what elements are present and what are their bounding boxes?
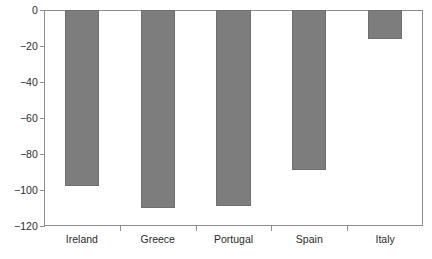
y-axis-tick-label: −100 xyxy=(0,185,38,196)
y-axis-tick-label: −20 xyxy=(0,41,38,52)
x-axis-category-label: Portugal xyxy=(214,234,253,245)
bar-series xyxy=(44,10,423,226)
x-axis-category-label: Ireland xyxy=(66,234,98,245)
y-axis-tick-labels: 0−20−40−60−80−100−120 xyxy=(0,0,38,259)
y-axis-tick-label: −120 xyxy=(0,221,38,232)
x-axis-tick-marks xyxy=(44,226,423,232)
y-axis-tick-label: 0 xyxy=(0,5,38,16)
bar xyxy=(216,10,250,206)
y-axis-tick-label: −60 xyxy=(0,113,38,124)
x-axis-category-label: Italy xyxy=(375,234,394,245)
y-axis-tick-label: −80 xyxy=(0,149,38,160)
bar-chart: 0−20−40−60−80−100−120 IrelandGreecePortu… xyxy=(0,0,432,259)
x-axis-tick-mark xyxy=(120,226,121,231)
bar xyxy=(141,10,175,208)
x-axis-category-label: Spain xyxy=(296,234,323,245)
x-axis-tick-mark xyxy=(196,226,197,231)
x-axis-tick-mark xyxy=(347,226,348,231)
bar xyxy=(292,10,326,170)
x-axis-tick-labels: IrelandGreecePortugalSpainItaly xyxy=(44,234,423,254)
bar xyxy=(368,10,402,39)
x-axis-tick-mark xyxy=(271,226,272,231)
x-axis-category-label: Greece xyxy=(140,234,174,245)
bar xyxy=(65,10,99,186)
y-axis-tick-label: −40 xyxy=(0,77,38,88)
